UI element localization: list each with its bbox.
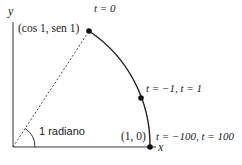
point-top-param-label: t = 0 <box>94 3 115 14</box>
point-mid-param-label: t = −1, t = 1 <box>146 83 202 94</box>
x-axis-label: x <box>158 141 163 153</box>
point-base-coord-label: (1, 0) <box>121 131 146 143</box>
point-base-param-label: t = −100, t = 100 <box>156 131 234 142</box>
angle-label: 1 radiano <box>39 126 85 137</box>
y-axis-label: y <box>8 5 13 17</box>
point-t0 <box>86 28 92 34</box>
point-t1 <box>138 95 144 101</box>
unit-circle-arc-diagram: y x (cos 1, sen 1) t = 0 t = −1, t = 1 (… <box>0 0 242 165</box>
point-t100 <box>147 144 153 150</box>
point-top-coord-label: (cos 1, sen 1) <box>18 23 79 35</box>
angle-arc <box>25 129 35 148</box>
